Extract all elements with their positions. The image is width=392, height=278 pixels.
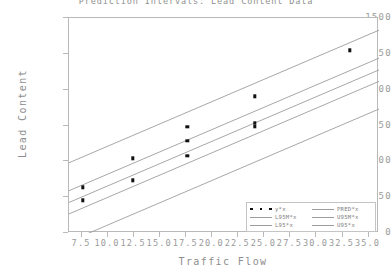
x-tick-label: 12.5: [121, 238, 146, 248]
legend-item-label: L95*x: [275, 222, 293, 228]
legend-line-swatch: [250, 222, 272, 229]
data-point: [81, 185, 84, 188]
legend-item-label: y*x: [275, 206, 286, 212]
legend-item: U95*x: [312, 221, 372, 229]
chart-container: Prediction Intervals: Lead Content Data …: [0, 0, 392, 278]
legend-column-right: PRED*xU95M*xU95*x: [312, 205, 372, 229]
data-point: [253, 94, 256, 97]
legend-line-swatch: [312, 214, 334, 221]
x-tick-label: 32.5: [329, 238, 354, 248]
legend-item: L95*x: [250, 221, 310, 229]
x-tick-label: 20.0: [199, 238, 224, 248]
legend-line-swatch: [312, 206, 334, 213]
x-tick-label: 22.5: [225, 238, 250, 248]
legend-item-label: U95M*x: [337, 214, 359, 220]
legend-item: PRED*x: [312, 205, 372, 213]
data-point: [81, 199, 84, 202]
interval-line: [69, 81, 379, 214]
data-point: [253, 125, 256, 128]
x-tick-label: 35.0: [355, 238, 380, 248]
legend-column-left: y*xL95M*xL95*x: [250, 205, 310, 229]
data-point: [131, 157, 134, 160]
y-tick-mark: [63, 232, 68, 233]
y-axis-title: Lead Content: [17, 54, 28, 174]
data-point: [186, 154, 189, 157]
legend-item: y*x: [250, 205, 310, 213]
data-point: [131, 179, 134, 182]
x-tick-label: 10.0: [95, 238, 120, 248]
regression-lines: [69, 18, 379, 233]
interval-line: [69, 30, 379, 163]
x-tick-label: 30.0: [303, 238, 328, 248]
data-point: [186, 125, 189, 128]
x-tick-label: 25.0: [251, 238, 276, 248]
legend-item: U95M*x: [312, 213, 372, 221]
x-tick-label: 15.0: [147, 238, 172, 248]
x-tick-label: 27.5: [277, 238, 302, 248]
legend-marker-swatch: [250, 206, 272, 213]
legend-line-swatch: [250, 214, 272, 221]
legend-item-label: PRED*x: [337, 206, 359, 212]
legend: y*xL95M*xL95*x PRED*xU95M*xU95*x: [246, 202, 376, 232]
interval-line: [69, 58, 379, 191]
legend-line-swatch: [312, 222, 334, 229]
legend-item: L95M*x: [250, 213, 310, 221]
x-tick-label: 17.5: [173, 238, 198, 248]
plot-area: [68, 17, 378, 232]
data-point: [348, 49, 351, 52]
legend-item-label: L95M*x: [275, 214, 297, 220]
chart-title: Prediction Intervals: Lead Content Data: [0, 0, 392, 6]
interval-line: [69, 70, 379, 203]
x-axis-title: Traffic Flow: [68, 256, 378, 267]
data-point: [186, 139, 189, 142]
x-tick-label: 7.5: [72, 238, 91, 248]
legend-item-label: U95*x: [337, 222, 355, 228]
